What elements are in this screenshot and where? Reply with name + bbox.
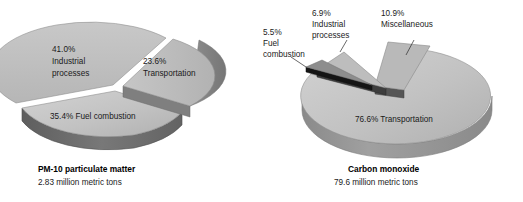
chart-pm10: 41.0% Industrial processes 23.6% Transpo… [0,22,226,187]
co-label-fuel-name2: combustion [263,50,305,59]
co-label-industrial-percent: 6.9% [312,9,331,18]
co-label-fuel-name1: Fuel [263,39,279,48]
co-label-industrial-name1: Industrial [312,20,345,29]
co-label-industrial-name2: processes [312,31,349,40]
pie-charts-figure: 41.0% Industrial processes 23.6% Transpo… [0,0,523,202]
co-caption-title: Carbon monoxide [348,164,420,174]
co-label-misc-percent: 10.9% [381,9,404,18]
label-transportation-percent: 23.6% [143,57,166,66]
label-transportation-name: Transportation [143,69,196,78]
pm10-caption: PM-10 particulate matter 2.83 million me… [38,164,136,187]
label-industrial-name1: Industrial [52,57,85,66]
pm10-caption-title: PM-10 particulate matter [38,164,136,174]
co-caption: Carbon monoxide 79.6 million metric tons [334,164,420,187]
leader-line-industrial [340,40,347,52]
co-caption-subtitle: 79.6 million metric tons [334,178,418,187]
co-label-misc-name: Miscellaneous [381,20,433,29]
co-label-transportation: 76.6% Transportation [355,115,433,124]
chart-carbon-monoxide: 5.5% Fuel combustion 6.9% Industrial pro… [263,9,492,187]
label-industrial-name2: processes [52,69,89,78]
pm10-caption-subtitle: 2.83 million metric tons [38,178,122,187]
label-industrial-percent: 41.0% [52,45,75,54]
label-fuel-combustion: 35.4% Fuel combustion [50,112,136,121]
co-label-fuel-percent: 5.5% [263,28,282,37]
